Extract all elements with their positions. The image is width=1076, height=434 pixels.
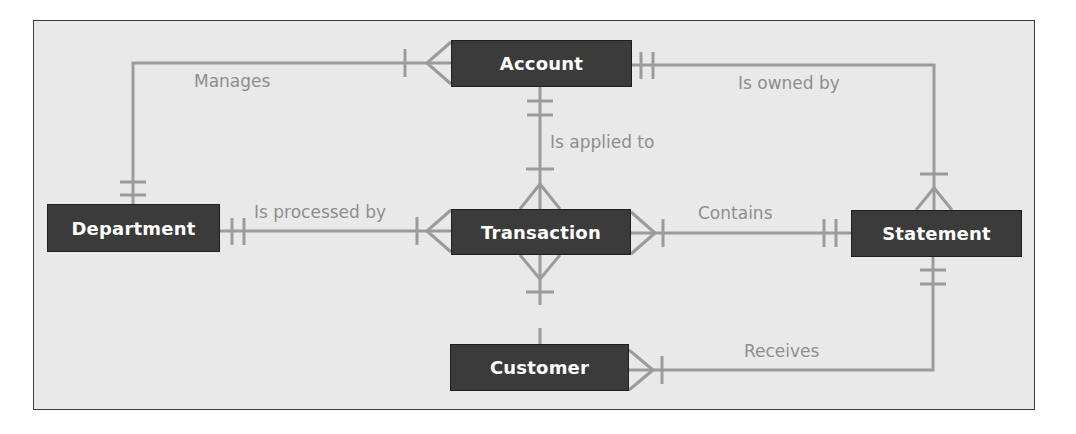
entity-department-label: Department: [71, 218, 195, 239]
label-contains: Contains: [698, 205, 772, 222]
connector-manages: [120, 42, 451, 204]
label-is-processed-by: Is processed by: [254, 204, 386, 221]
entity-account-label: Account: [500, 53, 583, 74]
entity-transaction-label: Transaction: [481, 222, 601, 243]
connector-receives: [629, 257, 946, 390]
label-is-applied-to: Is applied to: [550, 134, 654, 151]
label-is-owned-by: Is owned by: [738, 75, 840, 92]
connector-customer-transaction: [520, 255, 560, 344]
entity-transaction[interactable]: Transaction: [451, 209, 631, 255]
entity-statement-label: Statement: [882, 223, 991, 244]
entity-customer[interactable]: Customer: [450, 344, 629, 391]
label-receives: Receives: [744, 343, 819, 360]
entity-department[interactable]: Department: [47, 204, 220, 252]
entity-customer-label: Customer: [490, 357, 589, 378]
label-manages: Manages: [194, 73, 270, 90]
entity-account[interactable]: Account: [451, 40, 632, 87]
entity-statement[interactable]: Statement: [851, 210, 1022, 257]
